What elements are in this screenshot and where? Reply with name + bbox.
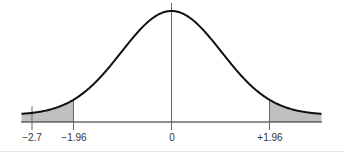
tick-label-zero: 0	[169, 132, 175, 143]
normal-distribution-chart: −2.7 −1.96 0 +1.96	[0, 0, 343, 154]
tick-labels: −2.7 −1.96 0 +1.96	[22, 132, 283, 143]
tick-label-neg-1-96: −1.96	[61, 132, 87, 143]
bottom-divider	[0, 151, 343, 152]
tick-label-pos-1-96: +1.96	[257, 132, 283, 143]
tick-label-neg-2-7: −2.7	[22, 132, 42, 143]
